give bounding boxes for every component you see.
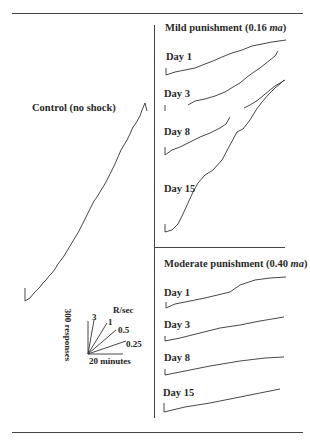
mild-day15-record (165, 80, 284, 232)
legend-y-scale: 300 responses (63, 309, 73, 362)
legend-rate-0-5: 0.5 (118, 325, 129, 335)
moderate-day3-record (165, 317, 284, 341)
control-record (25, 103, 147, 301)
cumulative-records (0, 0, 310, 441)
moderate-day1-record (166, 277, 286, 308)
mild-day1-record (166, 40, 286, 75)
legend-rate-0-25: 0.25 (126, 339, 142, 349)
moderate-day8-record (165, 357, 284, 375)
moderate-day15-record (164, 389, 280, 412)
legend-rate-header: R/sec (113, 305, 134, 315)
legend-x-scale: 20 minutes (89, 356, 131, 366)
mild-day8-record (165, 80, 285, 155)
mild-day3-record (165, 51, 278, 111)
legend-rate-3: 3 (92, 312, 97, 322)
legend-rate-1: 1 (108, 317, 113, 327)
